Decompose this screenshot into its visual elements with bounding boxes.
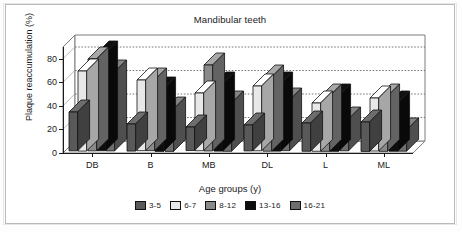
legend-swatch-icon <box>245 201 256 210</box>
x-axis-line <box>63 153 413 154</box>
y-axis-tick <box>59 59 63 60</box>
x-axis-tick <box>92 153 93 157</box>
x-axis-tick-label: B <box>147 160 153 170</box>
legend-label: 8-12 <box>219 201 236 210</box>
legend-label: 13-16 <box>259 201 280 210</box>
bar-front-face <box>69 112 78 151</box>
bar[interactable] <box>69 102 90 153</box>
y-axis-tick-label: 0 <box>52 148 57 158</box>
legend-swatch-icon <box>205 201 216 210</box>
legend-swatch-icon <box>290 201 301 210</box>
y-axis-title: Plaque reaccumulation (%) <box>24 0 34 137</box>
y-axis-tick <box>59 82 63 83</box>
x-axis-tick <box>267 153 268 157</box>
x-axis-tick-label: ML <box>378 160 391 170</box>
legend-item[interactable]: 3-5 <box>135 201 161 210</box>
bar[interactable] <box>302 113 323 153</box>
x-axis-tick <box>384 153 385 157</box>
bar[interactable] <box>361 112 382 153</box>
legend-label: 16-21 <box>304 201 325 210</box>
legend-label: 3-5 <box>149 201 161 210</box>
legend-item[interactable]: 8-12 <box>205 201 236 210</box>
legend-item[interactable]: 13-16 <box>245 201 280 210</box>
legend-label: 6-7 <box>184 201 196 210</box>
plot-area: 020406080 DBBMBDLLML <box>63 47 413 153</box>
y-axis-tick-label: 80 <box>47 54 57 64</box>
x-axis-tick-label: DB <box>86 160 99 170</box>
legend-item[interactable]: 6-7 <box>170 201 196 210</box>
y-axis-line <box>63 47 64 153</box>
bar[interactable] <box>244 115 265 153</box>
chart-legend: 3-56-78-1213-1616-21 <box>6 201 454 210</box>
legend-swatch-icon <box>135 201 146 210</box>
x-axis-tick <box>151 153 152 157</box>
x-axis-tick-label: DL <box>261 160 273 170</box>
x-axis-tick-label: L <box>323 160 328 170</box>
y-axis-tick-label: 60 <box>47 77 57 87</box>
x-axis-tick <box>326 153 327 157</box>
legend-swatch-icon <box>170 201 181 210</box>
x-axis-tick <box>209 153 210 157</box>
y-axis-tick-label: 40 <box>47 101 57 111</box>
bar[interactable] <box>127 114 148 153</box>
x-axis-tick-label: MB <box>202 160 216 170</box>
x-axis-title: Age groups (y) <box>6 183 454 194</box>
figure-frame: Mandibular teeth Plaque reaccumulation (… <box>5 4 455 224</box>
figure: Mandibular teeth Plaque reaccumulation (… <box>0 0 462 232</box>
bar[interactable] <box>186 117 207 153</box>
legend-item[interactable]: 16-21 <box>290 201 325 210</box>
y-axis-tick <box>59 106 63 107</box>
y-axis-tick-label: 20 <box>47 124 57 134</box>
y-axis-tick <box>59 129 63 130</box>
chart-title: Mandibular teeth <box>6 14 454 25</box>
